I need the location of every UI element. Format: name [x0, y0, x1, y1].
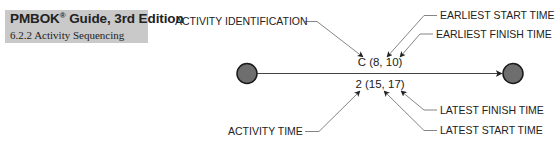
callout-activity-identification: ACTIVITY IDENTIFICATION: [175, 15, 308, 27]
start-event-node: [237, 64, 257, 84]
activity-identification-leader: [305, 22, 363, 58]
activity-time-label: 2 (15, 17): [355, 78, 404, 91]
earliest-start-time-leader: [387, 16, 437, 58]
callout-latest-start-time: LATEST START TIME: [440, 124, 543, 136]
activity-label: C (8, 10): [358, 56, 403, 69]
callout-activity-time: ACTIVITY TIME: [228, 125, 303, 137]
activity-time-leader: [305, 91, 360, 132]
callout-earliest-start-time: EARLIEST START TIME: [440, 9, 555, 21]
callout-earliest-finish-time: EARLIEST FINISH TIME: [436, 28, 552, 40]
end-event-node: [503, 64, 523, 84]
latest-finish-time-leader: [401, 91, 437, 110]
callout-latest-finish-time: LATEST FINISH TIME: [440, 104, 544, 116]
latest-start-time-leader: [384, 91, 437, 131]
